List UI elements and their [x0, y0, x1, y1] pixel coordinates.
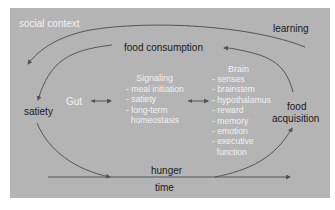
signaling-item: - long-term — [126, 105, 184, 115]
satiety-label: satiety — [24, 107, 53, 117]
brain-item: - memory — [212, 116, 271, 126]
food-consumption-label: food consumption — [124, 43, 203, 53]
food-acquisition-line2: acquisition — [272, 114, 319, 124]
gut-label: Gut — [66, 97, 82, 107]
consumption-to-satiety-arrow — [38, 45, 112, 100]
food-acquisition-line1: food — [287, 102, 306, 112]
brain-item: - emotion — [212, 126, 271, 136]
signaling-item: homeostasis — [126, 115, 184, 125]
signaling-list: - meal initiation - satiety - long-term … — [126, 84, 184, 126]
brain-item: - hypothalamus — [212, 95, 271, 105]
signaling-item: - meal initiation — [126, 84, 184, 94]
signaling-item: - satiety — [126, 94, 184, 104]
hunger-label: hunger — [151, 166, 182, 176]
brain-item: - executive — [212, 136, 271, 146]
social-context-label: social context — [19, 19, 80, 29]
learning-label: learning — [273, 24, 309, 34]
brain-item: - reward — [212, 105, 271, 115]
time-label: time — [155, 183, 174, 193]
signaling-title: Signaling — [136, 74, 173, 83]
brain-list: - senses - brainstem - hypothalamus - re… — [212, 74, 271, 157]
brain-item: - senses — [212, 74, 271, 84]
brain-item: function — [212, 147, 271, 157]
satiety-to-hunger-arrow — [37, 123, 110, 177]
brain-item: - brainstem — [212, 84, 271, 94]
brain-title: Brain — [228, 65, 249, 74]
